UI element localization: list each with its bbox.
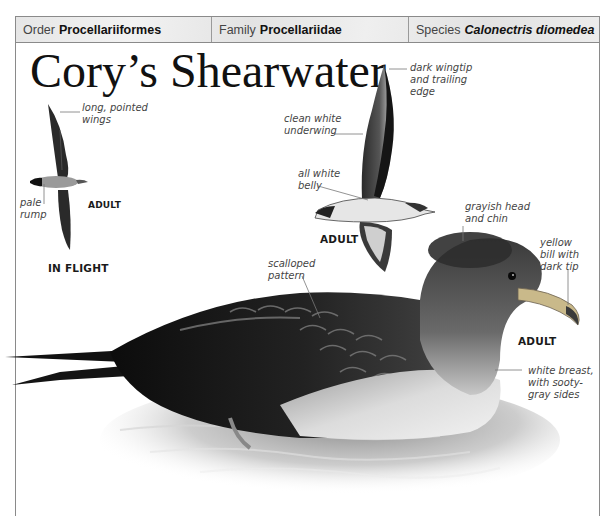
in-flight-caption: IN FLIGHT [48,262,109,274]
callout-white-breast: white breast, with sooty- gray sides [528,365,594,401]
callout-pale-rump: pale rump [20,197,47,221]
callout-grayish-head: grayish head and chin [465,201,530,225]
callout-all-white-belly: all white belly [298,168,340,192]
callout-scalloped-pattern: scalloped pattern [268,258,315,282]
swimming-adult-tag: ADULT [518,335,556,347]
flight-adult-top-view [30,104,88,250]
callout-long-pointed-wings: long, pointed wings [82,102,148,126]
callout-yellow-bill: yellow bill with dark tip [540,237,579,273]
callout-clean-white-underwing: clean white underwing [284,113,341,137]
flight-under-adult-tag: ADULT [320,233,358,245]
callout-dark-wingtip: dark wingtip and trailing edge [410,62,472,98]
flight-top-adult-tag: ADULT [88,200,121,210]
